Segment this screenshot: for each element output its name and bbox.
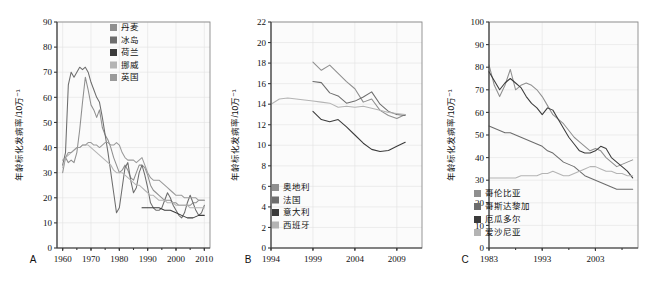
legend-label: 哥斯达黎加 [485, 201, 530, 211]
x-axis-ticks: 1994199920042009 [262, 248, 406, 264]
incidence-trend-figure: 0102030405060708090196019701980199020002… [0, 0, 651, 284]
x-tick-label: 1993 [533, 254, 552, 264]
legend-label: 爱沙尼亚 [485, 227, 521, 237]
y-tick-label: 0 [48, 243, 53, 253]
panel-letter-c: C [461, 254, 468, 265]
legend-label: 挪威 [121, 60, 139, 70]
legend-label: 西班牙 [283, 220, 310, 230]
legend-label: 哥伦比亚 [485, 188, 521, 198]
x-tick-label: 1970 [82, 254, 101, 264]
y-axis-title: 年龄标化发病率/10万⁻¹ [230, 89, 240, 180]
chart-svg-b: 02468101214161820221994199920042009年龄标化发… [217, 0, 434, 284]
y-tick-label: 20 [43, 193, 53, 203]
y-tick-label: 14 [257, 99, 267, 109]
y-tick-label: 0 [262, 243, 267, 253]
legend-label: 英国 [121, 72, 139, 82]
legend-swatch [272, 197, 279, 204]
legend-swatch [474, 216, 481, 223]
chart-panel-c: 0102030405060708090100198319932003年龄标化发病… [434, 0, 651, 284]
y-tick-label: 18 [257, 58, 267, 68]
legend-label: 冰岛 [121, 35, 139, 45]
x-tick-label: 1983 [480, 254, 499, 264]
legend-label: 荷兰 [121, 47, 139, 57]
legend-label: 奥地利 [283, 182, 310, 192]
chart-svg-a: 0102030405060708090196019701980199020002… [0, 0, 217, 284]
y-tick-label: 50 [475, 130, 485, 140]
legend-swatch [110, 74, 117, 81]
legend-swatch [272, 209, 279, 216]
y-tick-label: 10 [257, 140, 267, 150]
y-tick-label: 40 [475, 153, 485, 163]
x-tick-label: 1980 [110, 254, 129, 264]
y-tick-label: 80 [43, 42, 53, 52]
y-tick-label: 16 [257, 79, 267, 89]
x-axis-ticks: 196019701980199020002010 [54, 248, 214, 264]
panel-letter-b: B [245, 254, 252, 265]
y-tick-label: 60 [43, 93, 53, 103]
y-tick-label: 60 [475, 108, 485, 118]
chart-panel-b: 02468101214161820221994199920042009年龄标化发… [217, 0, 434, 284]
y-tick-label: 70 [43, 67, 53, 77]
x-tick-label: 1999 [304, 254, 323, 264]
legend-swatch [110, 62, 117, 69]
y-tick-label: 4 [262, 202, 267, 212]
y-axis-ticks: 0102030405060708090 [43, 17, 57, 253]
y-tick-label: 50 [43, 118, 53, 128]
legend-label: 法国 [283, 195, 301, 205]
y-tick-label: 22 [257, 17, 266, 27]
y-tick-label: 0 [480, 243, 485, 253]
x-tick-label: 1990 [139, 254, 158, 264]
y-tick-label: 80 [475, 62, 485, 72]
x-tick-label: 2000 [167, 254, 186, 264]
y-tick-label: 100 [471, 17, 485, 27]
legend-label: 丹麦 [121, 22, 139, 32]
legend-swatch [474, 190, 481, 197]
y-tick-label: 90 [475, 40, 485, 50]
x-tick-label: 2009 [388, 254, 407, 264]
legend-swatch [474, 203, 481, 210]
legend-swatch [474, 229, 481, 236]
y-tick-label: 2 [262, 223, 267, 233]
chart-svg-c: 0102030405060708090100198319932003年龄标化发病… [434, 0, 651, 284]
y-axis-title: 年龄标化发病率/10万⁻¹ [14, 89, 24, 180]
y-tick-label: 10 [43, 218, 53, 228]
y-tick-label: 30 [475, 175, 485, 185]
legend-swatch [110, 37, 117, 44]
chart-panel-a: 0102030405060708090196019701980199020002… [0, 0, 217, 284]
y-tick-label: 90 [43, 17, 53, 27]
y-axis-ticks: 0246810121416182022 [257, 17, 271, 253]
y-tick-label: 40 [43, 143, 53, 153]
x-axis-ticks: 198319932003 [480, 248, 622, 264]
x-tick-label: 2003 [586, 254, 605, 264]
legend-label: 意大利 [283, 207, 310, 217]
legend-swatch [272, 184, 279, 191]
y-tick-label: 20 [257, 38, 267, 48]
legend-swatch [110, 49, 117, 56]
x-tick-label: 1994 [262, 254, 281, 264]
x-tick-label: 2010 [195, 254, 214, 264]
y-tick-label: 6 [262, 182, 267, 192]
y-tick-label: 8 [262, 161, 267, 171]
y-tick-label: 70 [475, 85, 485, 95]
y-tick-label: 30 [43, 168, 53, 178]
legend-swatch [272, 222, 279, 229]
panel-letter-a: A [30, 254, 37, 265]
x-tick-label: 1960 [54, 254, 73, 264]
legend-swatch [110, 24, 117, 31]
y-axis-title: 年龄标化发病率/10万⁻¹ [446, 89, 456, 180]
legend-label: 厄瓜多尔 [485, 214, 521, 224]
y-tick-label: 12 [257, 120, 266, 130]
x-tick-label: 2004 [346, 254, 365, 264]
